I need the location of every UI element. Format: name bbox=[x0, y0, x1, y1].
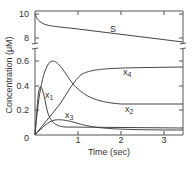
axis-break bbox=[32, 43, 186, 49]
ytick-0.4: 0.4 bbox=[16, 81, 29, 91]
ytick-0: 0 bbox=[24, 133, 29, 143]
ytick-8: 8 bbox=[24, 33, 29, 43]
label-S: S bbox=[110, 24, 116, 34]
series-x1 bbox=[35, 87, 183, 135]
chart: 10 8 0.6 0.4 0.2 0 1 2 3 Time (sec) Conc… bbox=[0, 0, 194, 170]
xtick-1: 1 bbox=[75, 135, 80, 145]
label-x3: x3 bbox=[65, 110, 74, 121]
series-S bbox=[35, 14, 183, 42]
ytick-10: 10 bbox=[19, 9, 29, 19]
xtick-2: 2 bbox=[118, 135, 123, 145]
label-x2: x2 bbox=[125, 104, 134, 115]
ytick-0.2: 0.2 bbox=[16, 105, 29, 115]
y-axis-label: Concentration (μM) bbox=[4, 36, 14, 113]
label-x1: x1 bbox=[45, 90, 54, 101]
label-x4: x4 bbox=[123, 67, 132, 78]
xtick-3: 3 bbox=[161, 135, 166, 145]
series-x2 bbox=[35, 61, 183, 135]
ytick-0.6: 0.6 bbox=[16, 56, 29, 66]
x-axis-label: Time (sec) bbox=[88, 147, 130, 157]
